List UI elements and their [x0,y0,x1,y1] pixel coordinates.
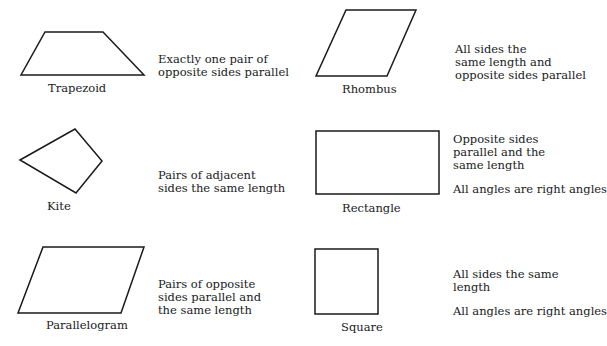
rectangle-shape [316,131,439,194]
description-line: opposite sides parallel [455,69,586,82]
right-angles-note: All angles are right angles [453,305,607,318]
rectangle-label: Rectangle [342,202,401,215]
right-angles-note: All angles are right angles [453,183,607,196]
square-label: Square [341,321,383,334]
kite-description: Pairs of adjacent sides the same length [158,169,285,195]
description-line: the same length [158,304,261,317]
kite-label: Kite [47,200,71,213]
description-line: sides the same length [158,182,285,195]
rhombus-label: Rhombus [342,83,397,96]
rectangle-description: Opposite sides parallel and the same len… [453,133,607,196]
trapezoid-description: Exactly one pair of opposite sides paral… [158,53,289,79]
parallelogram-shape [18,247,144,313]
parallelogram-description: Pairs of opposite sides parallel and the… [158,278,261,317]
trapezoid-label: Trapezoid [48,82,106,95]
description-line: length [453,281,607,294]
parallelogram-label: Parallelogram [46,319,128,332]
rhombus-description: All sides the same length and opposite s… [455,43,586,82]
description-line: opposite sides parallel [158,66,289,79]
square-description: All sides the same length All angles are… [453,268,607,318]
square-shape [315,249,378,314]
kite-shape [20,129,102,193]
trapezoid-shape [21,32,144,75]
description-line: same length [453,159,607,172]
rhombus-shape [316,10,416,76]
